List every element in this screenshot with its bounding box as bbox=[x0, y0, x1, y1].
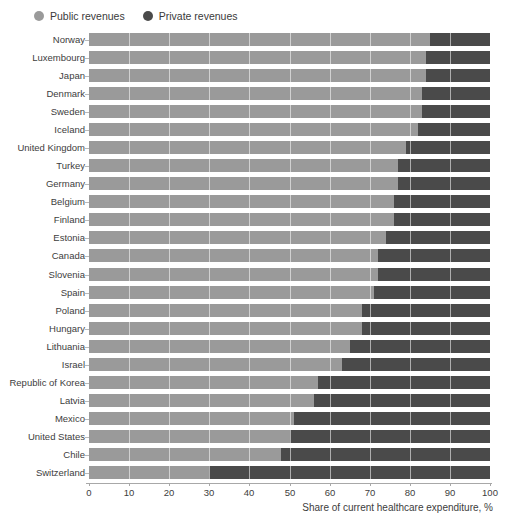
bar-row[interactable] bbox=[89, 51, 490, 64]
category-label: Republic of Korea bbox=[0, 376, 85, 389]
bar-segment-private-revenues[interactable] bbox=[394, 195, 490, 208]
bar-segment-public-revenues[interactable] bbox=[89, 249, 378, 262]
x-axis-tick bbox=[370, 483, 371, 486]
bar-row[interactable] bbox=[89, 340, 490, 353]
bar-row[interactable] bbox=[89, 87, 490, 100]
bar-segment-public-revenues[interactable] bbox=[89, 430, 290, 443]
bar-row[interactable] bbox=[89, 105, 490, 118]
bar-segment-private-revenues[interactable] bbox=[209, 466, 490, 479]
bar-segment-public-revenues[interactable] bbox=[89, 466, 209, 479]
category-label: Turkey bbox=[0, 159, 85, 172]
bar-segment-private-revenues[interactable] bbox=[398, 177, 490, 190]
bar-row[interactable] bbox=[89, 448, 490, 461]
legend-item-public-revenues[interactable]: Public revenues bbox=[34, 11, 125, 22]
bar-row[interactable] bbox=[89, 268, 490, 281]
bar-row[interactable] bbox=[89, 286, 490, 299]
bar-segment-private-revenues[interactable] bbox=[314, 394, 490, 407]
legend-item-private-revenues[interactable]: Private revenues bbox=[143, 11, 238, 22]
bar-segment-public-revenues[interactable] bbox=[89, 69, 426, 82]
bar-segment-public-revenues[interactable] bbox=[89, 304, 362, 317]
bar-segment-private-revenues[interactable] bbox=[426, 69, 490, 82]
category-label: Switzerland bbox=[0, 466, 85, 479]
category-label: United Kingdom bbox=[0, 141, 85, 154]
bar-segment-public-revenues[interactable] bbox=[89, 358, 342, 371]
bar-segment-private-revenues[interactable] bbox=[281, 448, 490, 461]
bar-row[interactable] bbox=[89, 69, 490, 82]
bar-row[interactable] bbox=[89, 33, 490, 46]
bar-segment-public-revenues[interactable] bbox=[89, 448, 281, 461]
bar-segment-public-revenues[interactable] bbox=[89, 286, 374, 299]
bar-segment-public-revenues[interactable] bbox=[89, 195, 394, 208]
category-label: Sweden bbox=[0, 105, 85, 118]
category-label: Belgium bbox=[0, 195, 85, 208]
bar-segment-public-revenues[interactable] bbox=[89, 412, 294, 425]
bar-segment-private-revenues[interactable] bbox=[422, 87, 490, 100]
bar-segment-private-revenues[interactable] bbox=[294, 412, 490, 425]
bar-segment-private-revenues[interactable] bbox=[426, 51, 490, 64]
category-label: Hungary bbox=[0, 322, 85, 335]
bar-segment-public-revenues[interactable] bbox=[89, 177, 398, 190]
legend-label-public-revenues: Public revenues bbox=[50, 11, 125, 22]
bar-segment-private-revenues[interactable] bbox=[430, 33, 490, 46]
bar-row[interactable] bbox=[89, 141, 490, 154]
bar-row[interactable] bbox=[89, 376, 490, 389]
x-axis-tick bbox=[450, 483, 451, 486]
bar-segment-public-revenues[interactable] bbox=[89, 394, 314, 407]
bar-row[interactable] bbox=[89, 231, 490, 244]
category-label: Slovenia bbox=[0, 268, 85, 281]
bar-segment-private-revenues[interactable] bbox=[378, 249, 490, 262]
bar-row[interactable] bbox=[89, 123, 490, 136]
bar-row[interactable] bbox=[89, 213, 490, 226]
bar-segment-private-revenues[interactable] bbox=[398, 159, 490, 172]
bar-row[interactable] bbox=[89, 412, 490, 425]
x-axis-tick bbox=[490, 483, 491, 486]
category-label: Canada bbox=[0, 249, 85, 262]
bar-row[interactable] bbox=[89, 177, 490, 190]
x-axis-tick bbox=[330, 483, 331, 486]
bar-segment-public-revenues[interactable] bbox=[89, 87, 422, 100]
bar-row[interactable] bbox=[89, 394, 490, 407]
bar-segment-public-revenues[interactable] bbox=[89, 141, 406, 154]
bar-segment-public-revenues[interactable] bbox=[89, 213, 394, 226]
bar-segment-private-revenues[interactable] bbox=[374, 286, 490, 299]
bar-segment-private-revenues[interactable] bbox=[290, 430, 491, 443]
bar-segment-private-revenues[interactable] bbox=[342, 358, 490, 371]
bar-row[interactable] bbox=[89, 304, 490, 317]
bar-segment-public-revenues[interactable] bbox=[89, 105, 422, 118]
bar-row[interactable] bbox=[89, 430, 490, 443]
bar-segment-private-revenues[interactable] bbox=[394, 213, 490, 226]
bar-rows bbox=[89, 30, 490, 482]
bar-segment-private-revenues[interactable] bbox=[378, 268, 490, 281]
bar-row[interactable] bbox=[89, 159, 490, 172]
x-axis-tick bbox=[410, 483, 411, 486]
bar-segment-public-revenues[interactable] bbox=[89, 340, 350, 353]
bar-segment-public-revenues[interactable] bbox=[89, 51, 426, 64]
bar-row[interactable] bbox=[89, 322, 490, 335]
bar-segment-public-revenues[interactable] bbox=[89, 159, 398, 172]
bar-row[interactable] bbox=[89, 358, 490, 371]
bar-segment-public-revenues[interactable] bbox=[89, 376, 318, 389]
bar-segment-public-revenues[interactable] bbox=[89, 123, 418, 136]
legend-label-private-revenues: Private revenues bbox=[159, 11, 238, 22]
bar-segment-private-revenues[interactable] bbox=[386, 231, 490, 244]
category-axis-labels: NorwayLuxembourgJapanDenmarkSwedenIcelan… bbox=[0, 30, 85, 482]
bar-segment-private-revenues[interactable] bbox=[318, 376, 490, 389]
bar-segment-private-revenues[interactable] bbox=[362, 304, 490, 317]
bar-segment-private-revenues[interactable] bbox=[422, 105, 490, 118]
x-axis-tick bbox=[169, 483, 170, 486]
bar-segment-public-revenues[interactable] bbox=[89, 322, 362, 335]
bar-segment-public-revenues[interactable] bbox=[89, 231, 386, 244]
bar-segment-private-revenues[interactable] bbox=[362, 322, 490, 335]
bar-segment-private-revenues[interactable] bbox=[418, 123, 490, 136]
bar-segment-public-revenues[interactable] bbox=[89, 33, 430, 46]
x-axis-tick bbox=[290, 483, 291, 486]
category-label: Poland bbox=[0, 304, 85, 317]
bar-row[interactable] bbox=[89, 249, 490, 262]
bar-row[interactable] bbox=[89, 466, 490, 479]
bar-row[interactable] bbox=[89, 195, 490, 208]
bar-segment-private-revenues[interactable] bbox=[350, 340, 490, 353]
bar-segment-private-revenues[interactable] bbox=[406, 141, 490, 154]
bar-segment-public-revenues[interactable] bbox=[89, 268, 378, 281]
category-label: Denmark bbox=[0, 87, 85, 100]
x-axis-tick-label: 50 bbox=[285, 487, 296, 498]
